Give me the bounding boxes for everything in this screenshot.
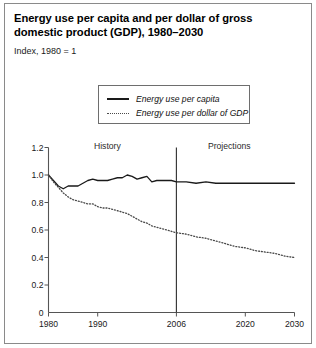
x-tick-label: 1980 xyxy=(39,319,58,329)
plot-area xyxy=(0,0,316,348)
y-tick-label: 0 xyxy=(22,308,44,318)
series-line-1 xyxy=(49,175,295,258)
y-tick-label: 0.4 xyxy=(22,253,44,263)
x-tick-label: 1990 xyxy=(88,319,107,329)
y-tick-label: 0.2 xyxy=(22,280,44,290)
y-tick-label: 0.6 xyxy=(22,225,44,235)
y-tick-label: 0.8 xyxy=(22,198,44,208)
y-tick-label: 1.0 xyxy=(22,170,44,180)
chart-figure: Energy use per capita and per dollar of … xyxy=(0,0,316,348)
x-tick-label: 2030 xyxy=(285,319,304,329)
series-line-0 xyxy=(49,175,295,189)
x-tick-label: 2006 xyxy=(167,319,186,329)
x-tick-label: 2020 xyxy=(236,319,255,329)
y-tick-label: 1.2 xyxy=(22,143,44,153)
